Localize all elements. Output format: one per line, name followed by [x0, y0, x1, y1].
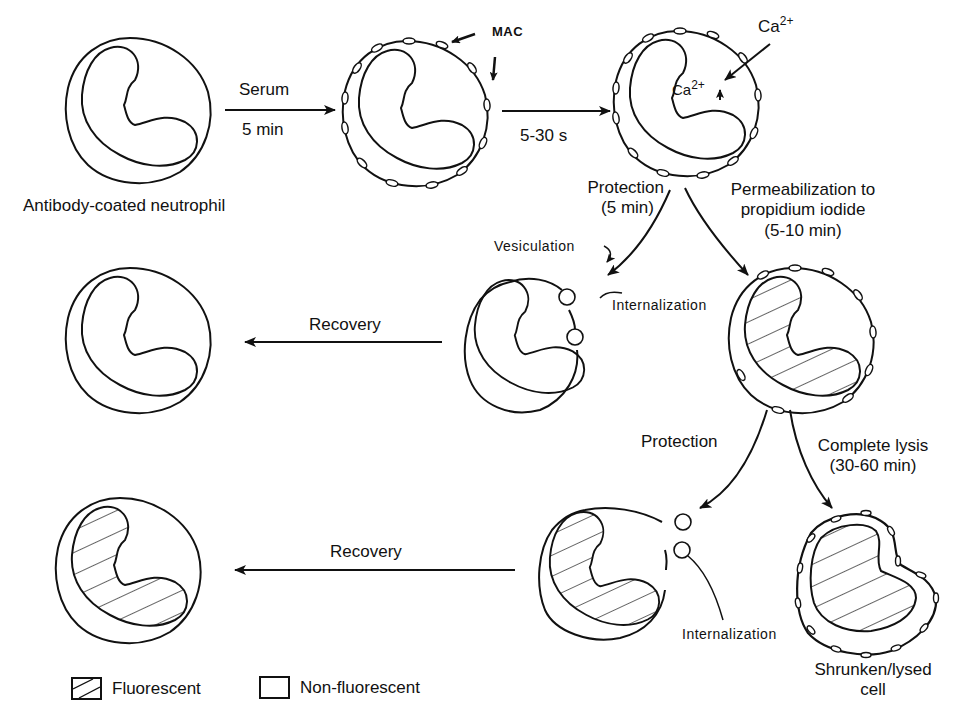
arrow-protection-late [700, 410, 767, 508]
mac-pointer-1 [452, 34, 475, 42]
calcium-internal-ion: Ca [672, 81, 691, 98]
legend-non-fluorescent: Non-fluorescent [259, 676, 420, 699]
diagram-canvas [0, 0, 965, 718]
mac-label: MAC [492, 24, 523, 40]
protection-early-line2: (5 min) [560, 198, 664, 218]
vesiculation-pointer [604, 246, 610, 262]
recovery-top-label: Recovery [309, 315, 381, 335]
cell-recovered-early [66, 268, 211, 413]
permeabilization-label: Permeabilization to propidium iodide (5-… [696, 180, 910, 241]
cell-protected-late [539, 508, 691, 639]
cell-antibody-coated [66, 38, 211, 183]
legend-fluorescent-label: Fluorescent [112, 679, 201, 699]
caption-antibody-coated: Antibody-coated neutrophil [23, 196, 225, 216]
cell-calcium-influx [612, 28, 762, 179]
caption-lysed-line1: Shrunken/lysed [798, 660, 948, 680]
empty-swatch-icon [259, 676, 290, 699]
caption-lysed: Shrunken/lysed cell [798, 660, 948, 701]
protection-early-line1: Protection [560, 178, 664, 198]
serum-label: Serum [239, 80, 289, 100]
protection-late-label: Protection [641, 432, 718, 452]
legend-non-fluorescent-label: Non-fluorescent [300, 678, 420, 698]
mac-pointer-2 [493, 57, 495, 80]
permeabilization-line1: Permeabilization to [696, 180, 910, 200]
complete-lysis-line2: (30-60 min) [804, 456, 942, 476]
calcium-internal-charge: 2+ [691, 78, 705, 92]
permeabilization-line2: propidium iodide [696, 200, 910, 220]
calcium-external-charge: 2+ [780, 14, 794, 28]
calcium-external-label: Ca2+ [758, 14, 793, 37]
vesiculation-label: Vesiculation [494, 238, 575, 255]
cell-mac-attached [341, 38, 491, 189]
caption-lysed-line2: cell [798, 680, 948, 700]
hatched-swatch-icon [71, 677, 102, 700]
cell-protected-early [465, 279, 584, 413]
recovery-bottom-label: Recovery [330, 542, 402, 562]
fast-time-label: 5-30 s [520, 126, 567, 146]
calcium-external-ion: Ca [758, 17, 780, 36]
cell-recovered-late [56, 498, 201, 643]
internalization-late-label: Internalization [682, 626, 777, 643]
permeabilization-line3: (5-10 min) [696, 221, 910, 241]
cell-lysed [795, 511, 939, 658]
internalization-early-label: Internalization [612, 297, 707, 314]
internalization-pointer-late [688, 556, 723, 620]
cell-permeabilized [729, 265, 877, 414]
complete-lysis-label: Complete lysis (30-60 min) [804, 436, 942, 477]
legend-fluorescent: Fluorescent [71, 677, 201, 700]
complete-lysis-line1: Complete lysis [804, 436, 942, 456]
protection-early-label: Protection (5 min) [560, 178, 664, 219]
calcium-internal-label: Ca2+ [672, 78, 705, 99]
serum-time-label: 5 min [242, 120, 284, 140]
